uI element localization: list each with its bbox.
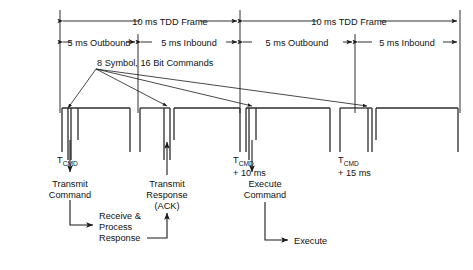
- time-marker-3: TCMD + 15 ms: [338, 155, 371, 178]
- frame-1-label: 10 ms TDD Frame: [132, 17, 207, 27]
- process-line2: Process: [99, 222, 133, 232]
- time-marker-3-offset: + 15 ms: [338, 168, 371, 178]
- process-receive-response: Receive & Process Response: [70, 200, 167, 243]
- time-marker-2-base: TCMD: [233, 155, 254, 167]
- callout-leader-4: [96, 69, 367, 106]
- event-transmit-response: Transmit Response (ACK): [146, 142, 187, 211]
- transmit-command-line1: Transmit: [52, 179, 88, 189]
- transmit-to-process-connector: [70, 200, 93, 225]
- time-marker-2: TCMD + 10 ms: [233, 155, 266, 178]
- timing-diagram-canvas: 10 ms TDD Frame 10 ms TDD Frame 5 ms Out…: [0, 0, 473, 270]
- symbol-callout: 8 Symbol, 16 Bit Commands: [68, 58, 367, 108]
- timing-diagram: 10 ms TDD Frame 10 ms TDD Frame 5 ms Out…: [0, 0, 473, 270]
- execute-connector: [265, 202, 288, 240]
- transmit-response-line2: Response: [146, 190, 187, 200]
- time-marker-2-offset: + 10 ms: [233, 168, 266, 178]
- event-transmit-command: Transmit Command: [49, 140, 91, 200]
- callout-leader-2: [96, 69, 167, 106]
- callout-leader-1: [68, 69, 96, 108]
- execute-output-label: Execute: [294, 236, 327, 246]
- execute-command-line2: Command: [244, 190, 286, 200]
- frame-dimension-row: 10 ms TDD Frame 10 ms TDD Frame: [63, 17, 457, 27]
- execute-command-line1: Execute: [248, 179, 281, 189]
- frame-2-label: 10 ms TDD Frame: [311, 17, 386, 27]
- transmit-response-line3: (ACK): [154, 201, 179, 211]
- transmit-command-line2: Command: [49, 190, 91, 200]
- half-1-label: 5 ms Outbound: [68, 38, 131, 48]
- half-4-label: 5 ms Inbound: [379, 38, 435, 48]
- symbol-callout-label: 8 Symbol, 16 Bit Commands: [97, 58, 214, 68]
- half-2-label: 5 ms Inbound: [161, 38, 217, 48]
- half-dimension-row: 5 ms Outbound 5 ms Inbound 5 ms Outbound…: [63, 38, 457, 48]
- pulse-train-waveform: [62, 108, 458, 160]
- transmit-response-line1: Transmit: [149, 179, 185, 189]
- process-line3: Response: [99, 233, 140, 243]
- process-to-response-connector: [147, 213, 167, 238]
- output-execute: Execute: [265, 202, 327, 246]
- time-marker-3-base: TCMD: [338, 155, 359, 167]
- half-3-label: 5 ms Outbound: [266, 38, 329, 48]
- process-line1: Receive &: [99, 211, 141, 221]
